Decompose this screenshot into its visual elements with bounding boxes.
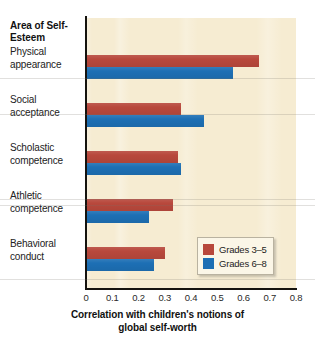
x-tick-0.2: 0.2: [132, 292, 145, 303]
category-label-3: Athleticcompetence: [10, 190, 86, 215]
x-tick-0.6: 0.6: [237, 292, 250, 303]
x-tick-0: 0: [83, 292, 88, 303]
y-axis-line: [85, 16, 87, 290]
bar-grades-6-8-0: [86, 67, 233, 79]
bar-grades-3-5-4: [86, 247, 165, 259]
bar-grades-6-8-2: [86, 163, 181, 175]
x-tick-0.3: 0.3: [158, 292, 171, 303]
x-tick-0.8: 0.8: [290, 292, 303, 303]
legend-label-grades-6-8: Grades 6–8: [219, 258, 267, 269]
x-tick-0.1: 0.1: [106, 292, 119, 303]
x-axis-title-line2: global self-worth: [0, 321, 315, 334]
bar-grades-6-8-1: [86, 115, 204, 127]
x-axis-title: Correlation with children's notions of g…: [0, 308, 315, 334]
category-label-column: PhysicalappearanceSocialacceptanceSchola…: [0, 18, 86, 288]
bar-grades-6-8-3: [86, 211, 149, 223]
bar-chart-figure: Area of Self-Esteem PhysicalappearanceSo…: [0, 0, 315, 338]
legend-swatch-blue: [203, 258, 214, 269]
x-axis-line: [85, 288, 297, 290]
legend-item-grades-6-8: Grades 6–8: [203, 256, 267, 270]
category-label-2: Scholasticcompetence: [10, 142, 86, 167]
legend-label-grades-3-5: Grades 3–5: [219, 244, 267, 255]
category-label-4: Behavioralconduct: [10, 238, 86, 263]
x-tick-0.5: 0.5: [211, 292, 224, 303]
bar-grades-3-5-1: [86, 103, 181, 115]
x-axis-ticks: 00.10.20.30.40.50.60.70.8: [86, 292, 296, 306]
x-axis-title-line1: Correlation with children's notions of: [0, 308, 315, 321]
legend-item-grades-3-5: Grades 3–5: [203, 242, 267, 256]
bar-grades-3-5-2: [86, 151, 178, 163]
bar-grades-3-5-3: [86, 199, 173, 211]
category-label-1: Socialacceptance: [10, 94, 86, 119]
legend-swatch-red: [203, 244, 214, 255]
bar-grades-6-8-4: [86, 259, 154, 271]
category-label-0: Physicalappearance: [10, 46, 86, 71]
chart-legend: Grades 3–5 Grades 6–8: [197, 237, 274, 275]
bar-grades-3-5-0: [86, 55, 259, 67]
x-tick-0.7: 0.7: [263, 292, 276, 303]
x-tick-0.4: 0.4: [185, 292, 198, 303]
